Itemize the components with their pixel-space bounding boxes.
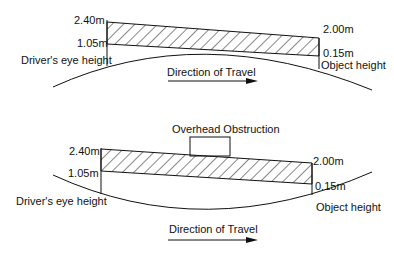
sag-direction-label: Direction of Travel: [169, 224, 258, 235]
sag-eye-top-label: 2.40m: [69, 146, 100, 157]
sag-direction-arrow: [168, 237, 258, 243]
crest-eye-top-label: 2.40m: [74, 15, 105, 26]
crest-eye-bottom-label: 1.05m: [77, 38, 108, 49]
crest-object-caption: Object height: [321, 60, 386, 71]
sag-eye-bottom-label: 1.05m: [68, 168, 99, 179]
sag-eye-caption: Driver's eye height: [16, 196, 107, 207]
overhead-obstruction-box: [190, 137, 230, 156]
overhead-obstruction-label: Overhead Obstruction: [172, 124, 280, 135]
sag-object-caption: Object height: [316, 202, 381, 213]
crest-object-top-label: 2.00m: [323, 24, 354, 35]
sag-object-bottom-label: 0.15m: [315, 181, 346, 192]
sag-object-top-label: 2.00m: [313, 156, 344, 167]
crest-eye-caption: Driver's eye height: [21, 55, 112, 66]
crest-direction-label: Direction of Travel: [167, 67, 256, 78]
crest-object-bottom-label: 0.15m: [323, 48, 354, 59]
crest-sight-envelope: [107, 22, 319, 56]
crest-direction-arrow: [168, 78, 258, 84]
